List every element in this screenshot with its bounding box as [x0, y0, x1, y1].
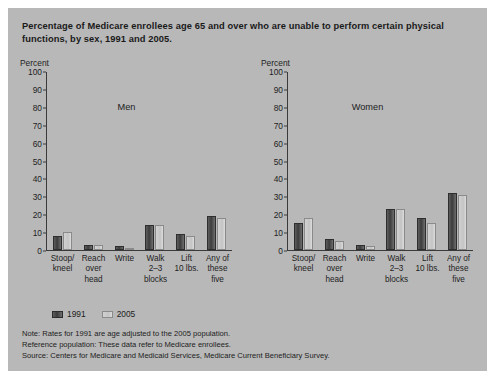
x-category-label: Walk2–3blocks: [140, 254, 171, 285]
x-axis-category-labels-women: Stoop/kneelReachoverheadWriteWalk2–3bloc…: [288, 254, 474, 285]
x-category-line: Lift: [171, 254, 202, 264]
x-category-label: Any ofthesefive: [202, 254, 233, 285]
y-tick-mark-90-men: [43, 89, 46, 90]
x-category-line: 2–3: [381, 264, 412, 274]
legend-swatch-1991: [52, 311, 63, 318]
y-tick-mark-70-men: [43, 125, 46, 126]
x-category-label: Lift10 lbs.: [171, 254, 202, 285]
y-tick-mark-80-women: [284, 107, 287, 108]
bar-2005: [366, 246, 375, 250]
note-line: Reference population: These data refer t…: [22, 339, 330, 350]
x-category-line: these: [202, 264, 233, 274]
x-category-line: Any of: [202, 254, 233, 264]
x-category-line: 2–3: [140, 264, 171, 274]
y-tick-mark-70-women: [284, 125, 287, 126]
y-tick-mark-100-women: [284, 72, 287, 73]
chart-card: Percentage of Medicare enrollees age 65 …: [8, 8, 487, 371]
y-tick-mark-30-women: [284, 197, 287, 198]
chart-legend: 19912005: [52, 309, 135, 319]
x-category-label: Write: [109, 254, 140, 285]
x-category-line: Write: [350, 254, 381, 264]
x-category-line: Reach: [78, 254, 109, 264]
y-tick-mark-60-men: [43, 143, 46, 144]
bar-group: [145, 72, 164, 250]
bar-1991: [325, 239, 334, 250]
x-category-line: 10 lbs.: [412, 264, 443, 274]
y-tick-mark-100-men: [43, 72, 46, 73]
x-category-line: Walk: [140, 254, 171, 264]
legend-label-1991: 1991: [67, 309, 86, 319]
y-tick-mark-20-women: [284, 215, 287, 216]
bar-group: [207, 72, 226, 250]
x-category-line: five: [202, 275, 233, 285]
x-category-label: Any ofthesefive: [443, 254, 474, 285]
x-axis-category-labels-men: Stoop/kneelReachoverheadWriteWalk2–3bloc…: [47, 254, 233, 285]
note-line: Note: Rates for 1991 are age adjusted to…: [22, 328, 330, 339]
y-tick-mark-30-men: [43, 197, 46, 198]
bar-2005: [335, 241, 344, 250]
bar-2005: [396, 209, 405, 250]
y-tick-mark-50-women: [284, 161, 287, 162]
x-category-line: kneel: [288, 264, 319, 274]
bar-1991: [417, 218, 426, 250]
bar-group: [294, 72, 313, 250]
bar-group: [386, 72, 405, 250]
x-category-label: Reachoverhead: [319, 254, 350, 285]
x-axis-line-men: [46, 250, 232, 251]
bar-group: [448, 72, 467, 250]
bar-1991: [84, 245, 93, 250]
bar-group: [176, 72, 195, 250]
bar-2005: [155, 225, 164, 250]
legend-item-1991: 1991: [52, 309, 86, 319]
bar-group: [115, 72, 134, 250]
x-category-label: Lift10 lbs.: [412, 254, 443, 285]
x-category-line: Any of: [443, 254, 474, 264]
x-axis-line-women: [287, 250, 473, 251]
bar-1991: [448, 193, 457, 250]
x-category-line: Reach: [319, 254, 350, 264]
y-tick-mark-90-women: [284, 89, 287, 90]
bar-groups-men: [47, 72, 232, 250]
y-tick-mark-80-men: [43, 107, 46, 108]
x-category-line: blocks: [140, 275, 171, 285]
bar-1991: [176, 234, 185, 250]
bar-2005: [186, 236, 195, 250]
x-category-label: Write: [350, 254, 381, 285]
x-category-line: Lift: [412, 254, 443, 264]
bar-1991: [386, 209, 395, 250]
x-category-line: over: [319, 264, 350, 274]
bar-2005: [217, 218, 226, 250]
bar-groups-women: [288, 72, 473, 250]
x-category-line: Stoop/: [47, 254, 78, 264]
bar-2005: [125, 248, 134, 250]
x-category-line: 10 lbs.: [171, 264, 202, 274]
x-category-line: head: [319, 275, 350, 285]
x-category-line: over: [78, 264, 109, 274]
bar-2005: [94, 245, 103, 250]
bar-1991: [356, 245, 365, 250]
chart-notes: Note: Rates for 1991 are age adjusted to…: [22, 328, 330, 362]
plot-area-men: 1009080706050403020100: [46, 72, 232, 251]
x-category-label: Walk2–3blocks: [381, 254, 412, 285]
y-tick-mark-0-women: [284, 251, 287, 252]
y-tick-mark-60-women: [284, 143, 287, 144]
y-tick-mark-10-men: [43, 233, 46, 234]
bar-2005: [304, 218, 313, 250]
chart-panel-women: Percent Women 1009080706050403020100 Sto…: [255, 58, 480, 273]
bar-group: [356, 72, 375, 250]
x-category-line: five: [443, 275, 474, 285]
y-tick-mark-50-men: [43, 161, 46, 162]
bar-2005: [427, 223, 436, 250]
legend-swatch-2005: [102, 311, 113, 318]
bar-1991: [53, 236, 62, 250]
chart-panel-men: Percent Men 1009080706050403020100 Stoop…: [14, 58, 239, 273]
x-category-line: Write: [109, 254, 140, 264]
bar-group: [325, 72, 344, 250]
bar-group: [53, 72, 72, 250]
page-title: Percentage of Medicare enrollees age 65 …: [22, 20, 462, 46]
x-category-line: head: [78, 275, 109, 285]
x-category-line: kneel: [47, 264, 78, 274]
x-category-label: Reachoverhead: [78, 254, 109, 285]
x-category-label: Stoop/kneel: [47, 254, 78, 285]
bar-2005: [63, 232, 72, 250]
